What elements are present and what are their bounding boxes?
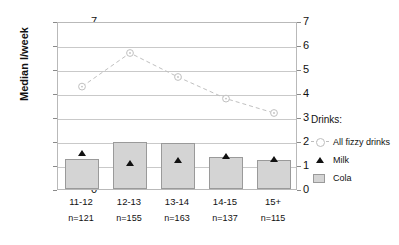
y-tick-label-right: 6 — [303, 40, 319, 51]
plot-area — [57, 22, 297, 190]
line-circle-marker-icon — [311, 136, 329, 148]
x-tick-label: 15+ — [243, 196, 303, 207]
line-marker-center — [273, 112, 275, 114]
legend: Drinks: All fizzy drinks Milk Cola — [311, 114, 397, 188]
legend-item-milk: Milk — [311, 152, 397, 167]
milk-marker — [222, 153, 230, 159]
line-series-all-fizzy-drinks — [58, 23, 298, 191]
bar-swatch-icon — [311, 172, 329, 184]
y-tick-label-right: 4 — [303, 88, 319, 99]
legend-title: Drinks: — [311, 114, 397, 125]
y-tick-mark-left — [53, 190, 57, 191]
milk-marker — [78, 150, 86, 156]
line-marker-center — [129, 52, 131, 54]
legend-label: Milk — [333, 155, 349, 165]
legend-item-all-fizzy-drinks: All fizzy drinks — [311, 134, 397, 149]
milk-marker — [174, 157, 182, 163]
line-marker-center — [177, 76, 179, 78]
y-tick-label-right: 7 — [303, 16, 319, 27]
line-marker-center — [81, 86, 83, 88]
chart-container: Median l/week 01234567 01234567 11-12n=1… — [0, 0, 399, 245]
y-axis-title: Median l/week — [18, 4, 30, 124]
milk-marker — [126, 160, 134, 166]
legend-item-cola: Cola — [311, 170, 397, 185]
milk-marker — [270, 156, 278, 162]
y-tick-label-right: 5 — [303, 64, 319, 75]
legend-label: Cola — [333, 173, 352, 183]
legend-label: All fizzy drinks — [333, 137, 390, 147]
line-marker-center — [225, 98, 227, 100]
line-path — [82, 53, 274, 113]
x-sample-size-label: n=115 — [243, 213, 303, 223]
triangle-marker-icon — [311, 154, 329, 166]
